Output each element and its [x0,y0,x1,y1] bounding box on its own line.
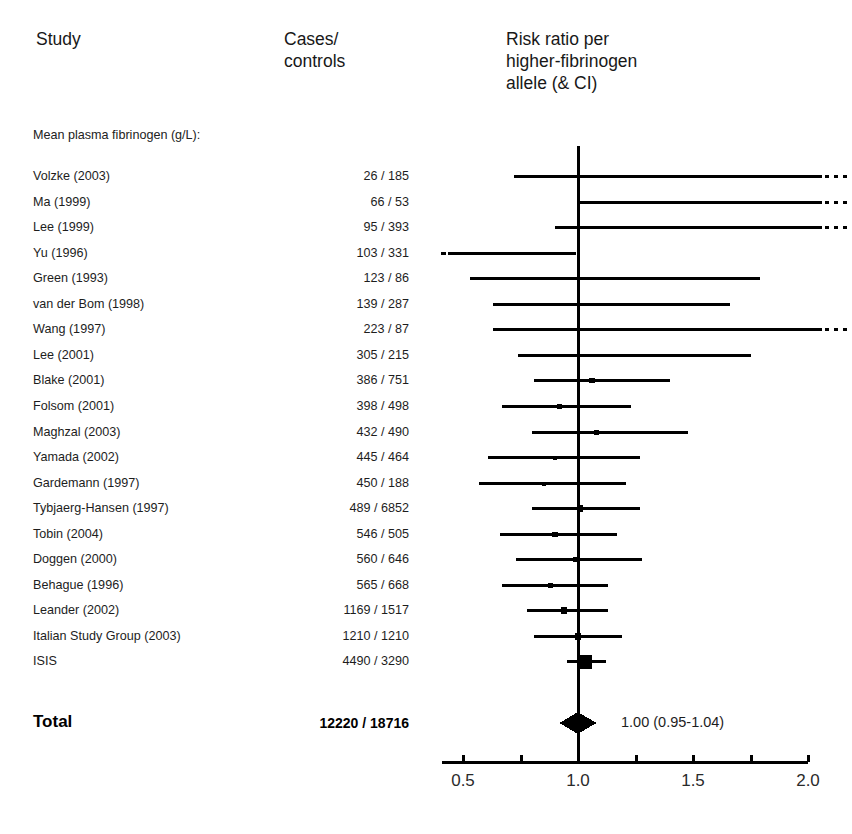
point-estimate-marker [480,252,484,256]
summary-diamond [560,712,597,734]
x-axis-tick-label: 0.5 [433,771,493,791]
point-estimate-marker [604,354,608,358]
point-estimate-marker [692,226,695,229]
x-axis-tick-label: 1.0 [548,771,608,791]
point-estimate-marker [577,277,580,280]
point-estimate-marker [548,583,554,589]
point-estimate-marker [553,456,557,460]
point-estimate-marker [594,430,599,435]
x-axis-tick-label: 1.5 [663,771,723,791]
point-estimate-marker [589,378,594,383]
point-estimate-marker [573,557,578,562]
point-estimate-marker [581,303,584,306]
forest-plot-graphic [0,0,852,834]
point-estimate-marker [552,532,557,537]
point-estimate-marker [557,404,562,409]
point-estimate-marker [578,655,592,669]
point-estimate-marker [575,633,582,640]
x-axis-tick-label: 2.0 [778,771,838,791]
point-estimate-marker [561,607,567,613]
point-estimate-marker [609,328,612,331]
forest-plot: Study Cases/ controls Risk ratio per hig… [0,0,852,834]
point-estimate-marker [577,505,583,511]
point-estimate-marker [542,482,546,486]
